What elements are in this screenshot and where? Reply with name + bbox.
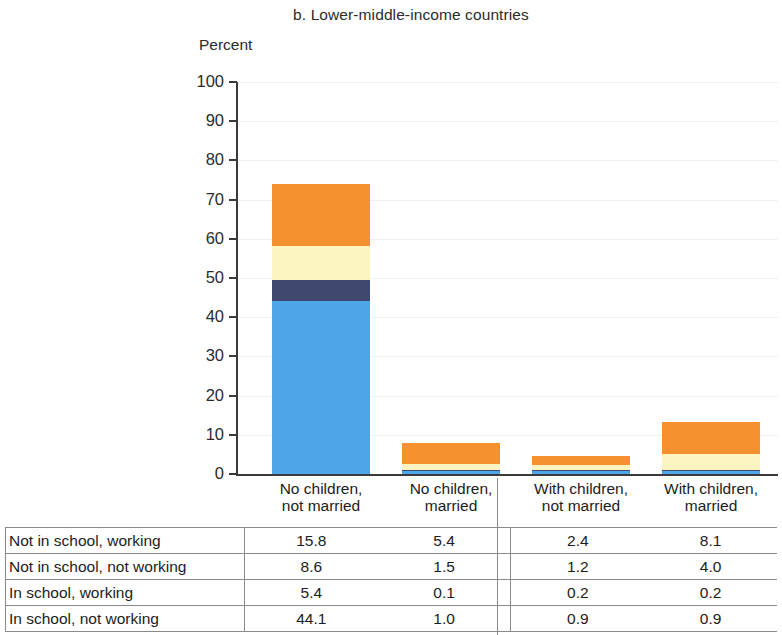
y-tick-mark-20 (229, 395, 237, 397)
y-tick-label-0: 0 (190, 465, 224, 481)
y-tick-mark-30 (229, 355, 237, 357)
table-cell-value: 2.4 (511, 528, 644, 554)
bar-column[interactable] (532, 82, 630, 474)
table-cell-value: 1.5 (378, 554, 511, 580)
table-row: In school, not working44.11.00.90.9 (6, 606, 778, 632)
x-category-label: No children,not married (256, 480, 386, 514)
plot-area (238, 82, 778, 474)
table-cell-value: 0.2 (644, 580, 777, 606)
x-category-label-line1: No children, (256, 480, 386, 497)
table-cell-value: 15.8 (244, 528, 377, 554)
y-tick-label-100: 100 (190, 73, 224, 89)
chart-title: b. Lower-middle-income countries (0, 6, 782, 24)
x-category-label-line1: With children, (516, 480, 646, 497)
table-row-label: In school, working (6, 580, 245, 606)
table-cell-value: 1.0 (378, 606, 511, 632)
x-category-label: With children,not married (516, 480, 646, 514)
table-cell-value: 1.2 (511, 554, 644, 580)
bar-column[interactable] (402, 82, 500, 474)
x-category-label: With children,married (646, 480, 776, 514)
bar-segment[interactable] (532, 470, 630, 471)
bar-segment[interactable] (532, 470, 630, 474)
table-cell-value: 4.0 (644, 554, 777, 580)
bar-segment[interactable] (272, 301, 370, 474)
y-tick-label-50: 50 (190, 269, 224, 285)
y-tick-mark-50 (229, 277, 237, 279)
table-cell-value: 5.4 (378, 528, 511, 554)
bar-segment[interactable] (272, 246, 370, 280)
y-tick-mark-80 (229, 159, 237, 161)
y-tick-mark-40 (229, 316, 237, 318)
table-row-label: Not in school, not working (6, 554, 245, 580)
table-cell-value: 0.9 (511, 606, 644, 632)
bar-segment[interactable] (662, 470, 760, 471)
bar-segment[interactable] (532, 465, 630, 470)
bar-column[interactable] (272, 82, 370, 474)
bar-segment[interactable] (402, 443, 500, 464)
table-cell-value: 0.2 (511, 580, 644, 606)
bar-segment[interactable] (662, 454, 760, 470)
y-tick-label-30: 30 (190, 347, 224, 363)
table-row-label: Not in school, working (6, 528, 245, 554)
table-cell-value: 0.9 (644, 606, 777, 632)
x-category-label-line2: married (646, 497, 776, 514)
x-axis-line (236, 474, 778, 476)
y-tick-label-80: 80 (190, 151, 224, 167)
table-cell-value: 44.1 (244, 606, 377, 632)
y-tick-label-40: 40 (190, 308, 224, 324)
table-cell-value: 0.1 (378, 580, 511, 606)
x-category-label-line1: With children, (646, 480, 776, 497)
table-row: Not in school, not working8.61.51.24.0 (6, 554, 778, 580)
y-tick-label-70: 70 (190, 191, 224, 207)
y-tick-mark-10 (229, 434, 237, 436)
table-cell-value: 8.1 (644, 528, 777, 554)
x-category-label-line2: not married (516, 497, 646, 514)
bar-segment[interactable] (532, 456, 630, 465)
bar-column[interactable] (662, 82, 760, 474)
y-tick-mark-90 (229, 120, 237, 122)
y-tick-mark-70 (229, 199, 237, 201)
data-table: Not in school, working15.85.42.48.1Not i… (5, 527, 777, 632)
y-tick-label-60: 60 (190, 230, 224, 246)
table-row-label: In school, not working (6, 606, 245, 632)
table-row: Not in school, working15.85.42.48.1 (6, 528, 778, 554)
table-cell-value: 5.4 (244, 580, 377, 606)
bar-segment[interactable] (272, 184, 370, 246)
y-axis-title: Percent (199, 36, 252, 54)
y-tick-mark-100 (229, 81, 237, 83)
y-tick-label-20: 20 (190, 387, 224, 403)
bar-segment[interactable] (402, 470, 500, 474)
data-table-body: Not in school, working15.85.42.48.1Not i… (6, 528, 778, 632)
x-category-label-line2: not married (256, 497, 386, 514)
bar-segment[interactable] (402, 464, 500, 470)
bar-segment[interactable] (662, 470, 760, 474)
table-cell-value: 8.6 (244, 554, 377, 580)
y-tick-mark-60 (229, 238, 237, 240)
y-tick-label-10: 10 (190, 426, 224, 442)
bar-segment[interactable] (272, 280, 370, 301)
y-tick-mark-0 (229, 473, 237, 475)
bar-segment[interactable] (662, 422, 760, 454)
table-row: In school, working5.40.10.20.2 (6, 580, 778, 606)
y-tick-label-90: 90 (190, 112, 224, 128)
